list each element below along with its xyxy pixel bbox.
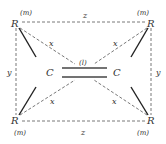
- molecule-diagram: R R R R C C (m) (m) (m) (m) (l) z z y y …: [0, 0, 166, 144]
- label-m-top-left: (m): [20, 9, 32, 17]
- label-y-right: y: [155, 68, 161, 77]
- bond-c-r-top-right: [131, 28, 148, 57]
- atom-r-top-right: R: [146, 18, 155, 29]
- diag-x-top-right: [94, 28, 147, 64]
- label-x-bottom-right: x: [112, 97, 117, 106]
- label-m-top-right: (m): [137, 9, 149, 17]
- atom-r-bottom-left: R: [10, 115, 19, 126]
- label-y-left: y: [6, 68, 12, 77]
- diag-x-bottom-right: [94, 80, 147, 115]
- label-x-top-right: x: [113, 39, 118, 48]
- bond-c-r-top-left: [19, 28, 36, 57]
- diag-x-top-left: [20, 28, 75, 64]
- atom-r-bottom-right: R: [146, 115, 155, 126]
- label-z-bottom: z: [80, 128, 86, 137]
- label-x-bottom-left: x: [50, 97, 55, 106]
- atom-c-right: C: [113, 67, 121, 78]
- bond-c-r-bottom-right: [131, 87, 148, 115]
- label-m-bottom-left: (m): [14, 129, 26, 137]
- label-x-top-left: x: [49, 39, 54, 48]
- label-bond-l: (l): [79, 59, 87, 67]
- bond-c-r-bottom-left: [19, 87, 36, 115]
- label-z-top: z: [82, 11, 88, 20]
- diag-x-bottom-left: [20, 80, 75, 115]
- atom-c-left: C: [46, 67, 54, 78]
- label-m-bottom-right: (m): [137, 129, 149, 137]
- atom-r-top-left: R: [10, 18, 19, 29]
